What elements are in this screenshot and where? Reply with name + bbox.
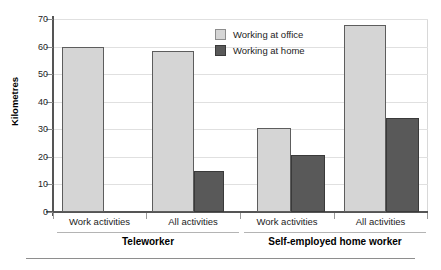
legend-swatch-home-icon	[215, 45, 226, 56]
y-tick-label-70: 70	[20, 15, 48, 24]
y-tick-label-0: 0	[20, 208, 48, 217]
bar-chart-figure: 70 60 50 40 30 20 10 0 Kilometres Work a…	[0, 0, 441, 270]
bar-office-3	[344, 25, 386, 212]
category-label-telework-work: Work activities	[53, 216, 146, 228]
footer-divider	[26, 258, 415, 259]
bar-office-1	[152, 51, 194, 212]
legend-item-home: Working at home	[215, 42, 335, 58]
legend: Working at office Working at home	[215, 26, 335, 58]
category-label-selfemp-work: Work activities	[240, 216, 334, 228]
group-rule-self-employed	[244, 232, 426, 233]
bar-office-0	[62, 47, 104, 212]
group-label-teleworker: Teleworker	[57, 235, 239, 248]
bar-home-2	[291, 155, 325, 212]
bar-office-2	[257, 128, 291, 212]
y-tick-label-10: 10	[20, 180, 48, 189]
y-tick-label-40: 40	[20, 98, 48, 107]
bar-home-1	[194, 171, 224, 212]
gridline-70	[53, 19, 428, 20]
bar-home-3	[386, 118, 419, 212]
y-axis-title: Kilometres	[9, 62, 20, 142]
category-label-selfemp-all: All activities	[334, 216, 427, 228]
group-label-self-employed: Self-employed home worker	[244, 235, 426, 248]
y-tick-label-20: 20	[20, 153, 48, 162]
legend-item-office: Working at office	[215, 26, 335, 42]
y-tick-label-50: 50	[20, 70, 48, 79]
y-tick-label-60: 60	[20, 43, 48, 52]
legend-label-office: Working at office	[233, 29, 303, 40]
category-separator-5	[427, 213, 428, 219]
category-label-telework-all: All activities	[146, 216, 240, 228]
legend-label-home: Working at home	[233, 45, 305, 56]
group-rule-teleworker	[57, 232, 239, 233]
y-tick-label-30: 30	[20, 125, 48, 134]
legend-swatch-office-icon	[215, 29, 226, 40]
